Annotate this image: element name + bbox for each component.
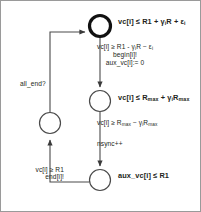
edge-allend-text: all_end?	[20, 80, 46, 87]
edge-bottom-guard-text: vc[i] ≥ R1	[8, 166, 64, 173]
node-mid[interactable]	[90, 91, 111, 112]
node-top[interactable]	[90, 16, 111, 37]
edge-bottom-sync-text: end[i]!	[8, 173, 64, 180]
edge-mid-update-text: nsync++	[97, 140, 123, 147]
edge-bottom-to-left-label: vc[i] ≥ R1 end[i]!	[8, 166, 64, 181]
edge-mid-to-bottom-update-label: nsync++	[97, 140, 123, 147]
edge-top-update-text: aux_vc[i]:= 0	[97, 59, 153, 66]
edge-left-to-top-label: all_end?	[20, 80, 46, 87]
edge-top-to-mid-label: vc[i] ≥ R1 - γiR − εi begin[i]! aux_vc[i…	[97, 43, 153, 66]
node-bottom[interactable]	[90, 170, 111, 191]
node-mid-invariant-text: vc[i] ≤ Rmax + γiRmax	[118, 93, 189, 102]
edge-top-guard-text: vc[i] ≥ R1 - γiR − εi	[97, 43, 153, 51]
node-mid-invariant-label: vc[i] ≤ Rmax + γiRmax	[118, 94, 189, 103]
node-bottom-invariant-text: aux_vc[i] ≤ R1	[118, 171, 169, 180]
state-diagram: vc[i] ≤ R1 + γiR + εi vc[i] ≤ Rmax + γiR…	[0, 0, 201, 212]
node-left[interactable]	[40, 113, 61, 134]
node-bottom-invariant-label: aux_vc[i] ≤ R1	[118, 172, 169, 180]
node-top-invariant-text: vc[i] ≤ R1 + γiR + εi	[118, 17, 186, 26]
edge-mid-guard-text: vc[i] ≥ Rmax − γiRmax	[97, 119, 157, 126]
edge-top-sync-text: begin[i]!	[97, 51, 153, 58]
node-top-invariant-label: vc[i] ≤ R1 + γiR + εi	[118, 18, 186, 27]
edge-mid-to-bottom-guard-label: vc[i] ≥ Rmax − γiRmax	[97, 119, 157, 127]
